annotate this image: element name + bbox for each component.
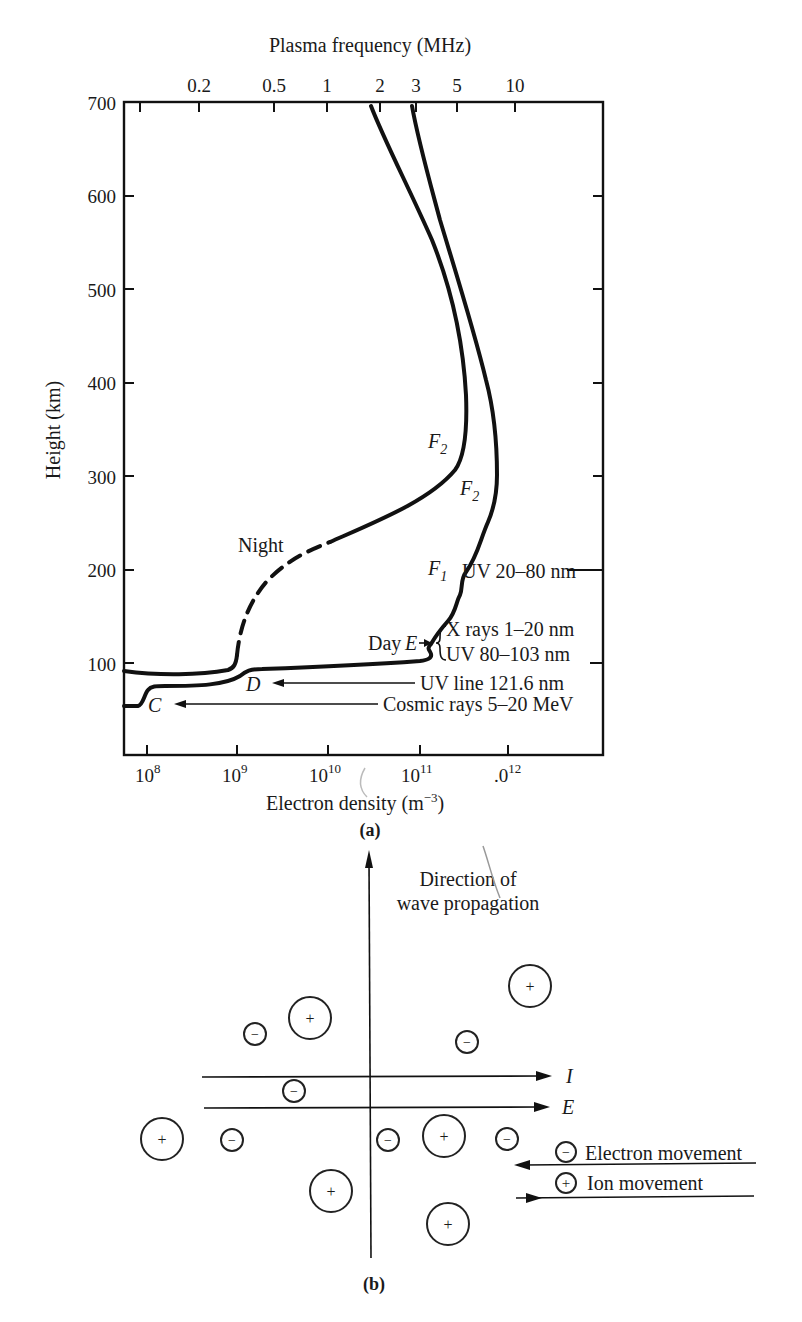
f2-day-label: F2 <box>459 477 479 504</box>
electron-particle: − <box>456 1031 478 1053</box>
svg-text:+: + <box>562 1175 570 1191</box>
figure-a-caption: (a) <box>360 820 381 841</box>
current-vector-i <box>202 1076 540 1077</box>
top-tick-label: 1 <box>322 75 332 96</box>
svg-text:−: − <box>562 1145 570 1160</box>
electron-particle: − <box>377 1129 399 1151</box>
vector-i-label: I <box>565 1065 574 1087</box>
ion-particle: + <box>509 965 551 1007</box>
direction-label-line1: Direction of <box>419 868 517 890</box>
direction-label-line2: wave propagation <box>397 892 540 915</box>
ion-particle: + <box>310 1170 352 1212</box>
arrow-right-icon <box>526 1193 542 1203</box>
x-tick-label: 1011 <box>401 761 433 786</box>
svg-text:−: − <box>228 1133 236 1148</box>
top-tick-label: 10 <box>506 75 525 96</box>
field-vector-e <box>204 1107 538 1108</box>
xrays-annotation: X rays 1–20 nm <box>446 618 575 641</box>
y-tick-label: 200 <box>88 560 117 581</box>
top-tick-label: 2 <box>375 75 385 96</box>
svg-text:+: + <box>326 1183 335 1200</box>
ion-particle: + <box>427 1203 469 1245</box>
y-tick-label: 700 <box>88 93 117 114</box>
c-region-label: C <box>148 694 162 716</box>
f2-night-label: F2 <box>427 430 447 457</box>
e-region-label: E <box>404 632 417 654</box>
svg-text:−: − <box>251 1027 259 1042</box>
x-tick-label: 109 <box>222 761 248 786</box>
y-axis-title: Height (km) <box>42 381 65 479</box>
legend-ion-movement: + Ion movement <box>516 1172 754 1203</box>
ion-particle: + <box>423 1115 465 1157</box>
svg-text:+: + <box>157 1131 166 1148</box>
uv-80-103-annotation: UV 80–103 nm <box>446 643 571 665</box>
top-axis-title: Plasma frequency (MHz) <box>269 34 471 57</box>
propagation-arrowhead-icon <box>365 850 373 868</box>
y-tick-label: 500 <box>88 280 117 301</box>
day-label: Day <box>368 632 401 655</box>
svg-text:+: + <box>439 1128 448 1145</box>
electron-particle: − <box>496 1128 518 1150</box>
vector-e-label: E <box>561 1096 574 1118</box>
x-tick-label: 1010 <box>309 761 341 786</box>
legend-electron-movement: − Electron movement <box>514 1142 756 1170</box>
top-tick-label: 5 <box>452 75 462 96</box>
top-tick-label: 3 <box>411 75 421 96</box>
propagation-axis <box>369 860 371 1258</box>
svg-text:−: − <box>463 1035 471 1050</box>
svg-text:+: + <box>443 1216 452 1233</box>
d-region-label: D <box>245 673 261 695</box>
x-tick-label: 108 <box>135 761 161 786</box>
figure-b-charge-diagram: Direction of wave propagation I E + + + … <box>141 846 756 1295</box>
y-tick-label: 100 <box>88 654 117 675</box>
day-curve <box>124 106 497 706</box>
figure-a-ionosphere-chart: Plasma frequency (MHz) 0.2 0.5 1 2 3 5 1… <box>42 34 603 841</box>
top-axis-ticks: 0.2 0.5 1 2 3 5 10 <box>140 75 525 112</box>
arrow-left-icon <box>514 1160 530 1170</box>
legend-electron-label: Electron movement <box>585 1142 743 1164</box>
y-tick-label: 300 <box>88 467 117 488</box>
night-curve-upper <box>330 106 466 542</box>
legend-ion-label: Ion movement <box>587 1172 704 1194</box>
f1-label: F1 <box>427 557 447 584</box>
electron-particle: − <box>244 1023 266 1045</box>
electron-particle: − <box>221 1129 243 1151</box>
top-tick-label: 0.2 <box>187 75 211 96</box>
uv-20-80-annotation: UV 20–80 nm <box>462 560 577 582</box>
svg-text:−: − <box>290 1084 298 1099</box>
cosmic-rays-annotation: Cosmic rays 5–20 MeV <box>383 693 574 716</box>
svg-text:+: + <box>525 978 534 995</box>
y-axis-ticks: 700 600 500 400 300 200 100 <box>88 93 604 675</box>
x-tick-label: .012 <box>494 761 521 786</box>
ion-particle: + <box>141 1118 183 1160</box>
y-tick-label: 600 <box>88 186 117 207</box>
top-tick-label: 0.5 <box>262 75 286 96</box>
electron-particle: − <box>283 1080 305 1102</box>
svg-text:−: − <box>503 1132 511 1147</box>
night-label: Night <box>238 534 284 557</box>
x-axis-ticks: 108 109 1010 1011 .012 <box>135 745 521 786</box>
ion-particle: + <box>289 997 331 1039</box>
svg-text:−: − <box>384 1133 392 1148</box>
figure-canvas: Plasma frequency (MHz) 0.2 0.5 1 2 3 5 1… <box>0 0 802 1322</box>
night-curve-dashed <box>237 542 330 655</box>
y-tick-label: 400 <box>88 373 117 394</box>
svg-text:+: + <box>305 1010 314 1027</box>
night-curve-lower <box>124 655 237 674</box>
uv-line-annotation: UV line 121.6 nm <box>420 672 565 694</box>
figure-b-caption: (b) <box>363 1274 385 1295</box>
x-axis-title: Electron density (m−3) <box>266 790 444 815</box>
